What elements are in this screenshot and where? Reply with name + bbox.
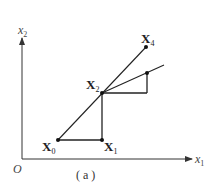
x-axis-label: x1: [195, 153, 204, 168]
label-x1: X1: [104, 140, 117, 156]
origin-label: O: [13, 163, 22, 175]
y-axis-label: x2: [18, 24, 27, 39]
label-x4: X4: [141, 32, 154, 48]
figure-caption: ( a ): [76, 169, 95, 181]
line-x2-x3-extended: [102, 65, 164, 93]
point-x3: [145, 71, 149, 75]
point-x2: [100, 91, 104, 95]
label-x0: X0: [42, 140, 55, 156]
diagram-canvas: [0, 0, 222, 190]
label-x2: X2: [86, 78, 99, 94]
point-x0: [56, 138, 60, 142]
